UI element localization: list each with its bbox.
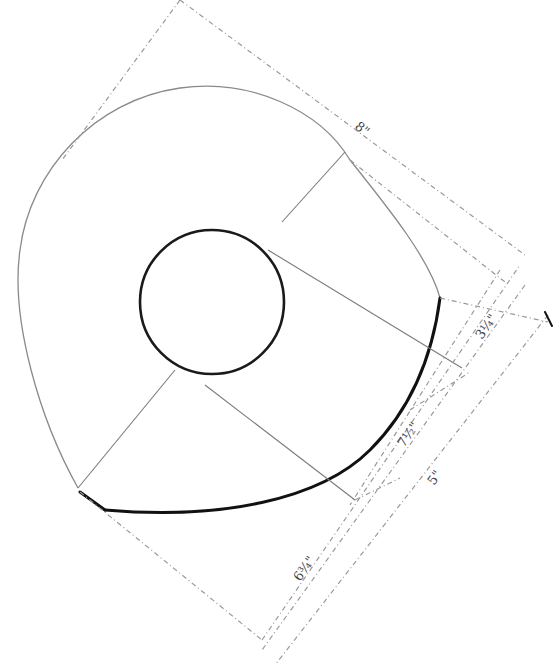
dim-tick-1 [350,160,505,282]
cam-outline [18,86,440,488]
dim-rail-outer [275,315,548,665]
hub-circle [140,230,284,374]
dim-frame-bottom [80,492,262,640]
dim-label-top: 8" [352,118,372,139]
radial-line-lower [78,370,175,488]
dim-tick-end [545,312,552,326]
dim-rail-inner [350,270,500,505]
radial-line-upper [282,152,345,222]
dim-frame-left-top [62,0,180,160]
cam-diagram: 8" 3¼" 7½" 5" 6¾" [0,0,558,671]
radial-line-right [268,250,462,368]
dim-frame-top [180,0,525,255]
radial-line-lower-right [205,385,355,500]
dim-tick-4 [355,478,400,500]
cam-bold-edge [105,298,440,513]
